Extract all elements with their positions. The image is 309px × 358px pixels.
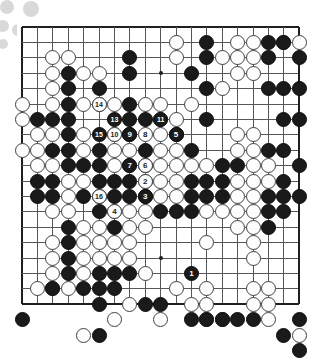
black-stone[interactable]: [292, 158, 307, 173]
white-stone[interactable]: [246, 174, 261, 189]
black-stone[interactable]: [92, 297, 107, 312]
white-stone[interactable]: [76, 174, 91, 189]
black-stone[interactable]: [61, 66, 76, 81]
black-stone[interactable]: [184, 312, 199, 327]
black-stone[interactable]: [92, 81, 107, 96]
white-stone[interactable]: [45, 158, 60, 173]
black-stone[interactable]: [276, 81, 291, 96]
black-stone[interactable]: [61, 158, 76, 173]
black-stone[interactable]: [61, 235, 76, 250]
black-stone[interactable]: [261, 220, 276, 235]
black-stone[interactable]: [45, 143, 60, 158]
white-stone[interactable]: [184, 158, 199, 173]
white-stone[interactable]: [230, 35, 245, 50]
white-stone[interactable]: [45, 235, 60, 250]
black-stone[interactable]: [215, 189, 230, 204]
white-stone[interactable]: [138, 220, 153, 235]
black-stone[interactable]: [76, 189, 91, 204]
white-stone[interactable]: [107, 235, 122, 250]
black-stone[interactable]: [292, 81, 307, 96]
black-stone[interactable]: [199, 35, 214, 50]
black-stone[interactable]: [230, 158, 245, 173]
black-stone[interactable]: [61, 220, 76, 235]
white-stone[interactable]: [199, 297, 214, 312]
white-stone[interactable]: [246, 297, 261, 312]
white-stone[interactable]: [92, 251, 107, 266]
white-stone[interactable]: [92, 235, 107, 250]
go-board[interactable]: 123456789101113141516: [17, 22, 305, 302]
black-stone[interactable]: [107, 281, 122, 296]
white-stone[interactable]: [292, 328, 307, 343]
black-stone[interactable]: [215, 158, 230, 173]
black-stone[interactable]: [292, 189, 307, 204]
white-stone[interactable]: [45, 266, 60, 281]
white-stone[interactable]: [92, 220, 107, 235]
black-stone[interactable]: [92, 174, 107, 189]
white-stone[interactable]: [246, 251, 261, 266]
black-stone[interactable]: [107, 266, 122, 281]
black-stone[interactable]: [45, 174, 60, 189]
white-stone[interactable]: [30, 143, 45, 158]
white-stone[interactable]: [45, 50, 60, 65]
go-board-grid[interactable]: 123456789101113141516: [17, 22, 304, 309]
black-stone[interactable]: [292, 343, 307, 358]
white-stone[interactable]: [76, 328, 91, 343]
black-stone[interactable]: [122, 50, 137, 65]
white-stone[interactable]: [45, 66, 60, 81]
white-stone[interactable]: [246, 235, 261, 250]
white-stone[interactable]: [153, 97, 168, 112]
white-stone[interactable]: [76, 220, 91, 235]
black-stone[interactable]: [261, 143, 276, 158]
white-stone[interactable]: [153, 143, 168, 158]
black-stone[interactable]: [261, 81, 276, 96]
white-stone[interactable]: [30, 158, 45, 173]
white-stone[interactable]: [215, 50, 230, 65]
black-stone[interactable]: [215, 174, 230, 189]
black-stone[interactable]: [276, 143, 291, 158]
white-stone[interactable]: [122, 251, 137, 266]
white-stone[interactable]: [30, 281, 45, 296]
white-stone[interactable]: [61, 281, 76, 296]
white-stone[interactable]: [169, 50, 184, 65]
black-stone[interactable]: [261, 189, 276, 204]
black-stone[interactable]: [61, 266, 76, 281]
white-stone[interactable]: [153, 127, 168, 142]
black-stone[interactable]: [45, 281, 60, 296]
white-stone[interactable]: [246, 189, 261, 204]
white-stone[interactable]: [246, 281, 261, 296]
black-stone[interactable]: [122, 189, 137, 204]
white-stone[interactable]: [169, 174, 184, 189]
white-stone[interactable]: [261, 174, 276, 189]
white-stone[interactable]: [61, 189, 76, 204]
white-stone[interactable]: [76, 235, 91, 250]
white-stone[interactable]: [230, 50, 245, 65]
white-stone[interactable]: [45, 127, 60, 142]
black-stone[interactable]: [184, 66, 199, 81]
black-stone[interactable]: [92, 204, 107, 219]
black-stone[interactable]: [15, 312, 30, 327]
black-stone[interactable]: [107, 174, 122, 189]
black-stone[interactable]: [153, 204, 168, 219]
white-stone[interactable]: [246, 66, 261, 81]
white-stone[interactable]: [30, 127, 45, 142]
white-stone[interactable]: [230, 143, 245, 158]
black-stone[interactable]: [138, 297, 153, 312]
black-stone[interactable]: [61, 81, 76, 96]
white-stone[interactable]: [107, 312, 122, 327]
black-stone[interactable]: [215, 312, 230, 327]
black-stone[interactable]: [122, 266, 137, 281]
white-stone[interactable]: [138, 204, 153, 219]
white-stone[interactable]: [230, 174, 245, 189]
black-stone[interactable]: [184, 174, 199, 189]
white-stone[interactable]: [261, 281, 276, 296]
black-stone[interactable]: [92, 158, 107, 173]
black-stone[interactable]: [45, 112, 60, 127]
white-stone[interactable]: [169, 281, 184, 296]
black-stone[interactable]: [92, 143, 107, 158]
white-stone[interactable]: [261, 158, 276, 173]
black-stone[interactable]: [261, 35, 276, 50]
black-stone[interactable]: [261, 204, 276, 219]
white-stone[interactable]: [122, 143, 137, 158]
black-stone[interactable]: [276, 204, 291, 219]
black-stone[interactable]: [184, 143, 199, 158]
